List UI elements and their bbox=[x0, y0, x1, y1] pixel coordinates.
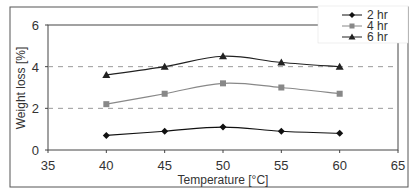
x-tick-label: 45 bbox=[157, 158, 171, 173]
plot-area bbox=[48, 25, 398, 150]
legend: 2 hr4 hr6 hr bbox=[318, 6, 408, 44]
x-tick-label: 60 bbox=[332, 158, 346, 173]
x-tick-label: 40 bbox=[99, 158, 113, 173]
square-marker bbox=[337, 91, 343, 97]
legend-box bbox=[318, 6, 408, 43]
square-marker bbox=[278, 85, 284, 91]
x-tick-label: 35 bbox=[41, 158, 55, 173]
y-tick-label: 0 bbox=[32, 143, 39, 158]
x-tick-label: 65 bbox=[391, 158, 405, 173]
y-axis-title: Weight loss [%] bbox=[14, 47, 28, 129]
square-marker bbox=[220, 80, 226, 86]
x-tick-label: 55 bbox=[274, 158, 288, 173]
x-axis-title: Temperature [°C] bbox=[178, 173, 269, 187]
legend-label: 6 hr bbox=[367, 30, 388, 44]
square-marker bbox=[350, 24, 355, 29]
y-tick-label: 4 bbox=[32, 60, 39, 75]
x-tick-label: 50 bbox=[216, 158, 230, 173]
square-marker bbox=[103, 101, 109, 107]
y-tick-label: 6 bbox=[32, 18, 39, 33]
y-tick-label: 2 bbox=[32, 101, 39, 116]
square-marker bbox=[162, 91, 168, 97]
line-chart: 35404550556065 0246 Temperature [°C] Wei… bbox=[0, 0, 415, 194]
